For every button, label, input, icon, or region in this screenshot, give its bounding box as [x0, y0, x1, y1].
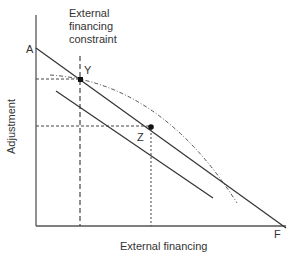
point-f-label: F — [274, 228, 281, 241]
point-z — [148, 124, 154, 130]
point-z-label: Z — [137, 131, 144, 144]
x-axis-label: External financing — [120, 240, 207, 253]
constraint-label-line1: External — [69, 7, 109, 20]
line-af — [36, 48, 286, 228]
diagram-canvas — [0, 0, 300, 260]
y-axis-label: Adjustment — [5, 99, 18, 154]
constraint-label-line2: financing — [69, 20, 113, 33]
point-y-label: Y — [84, 64, 91, 77]
constraint-label-line3: constraint — [69, 33, 117, 46]
point-a-label: A — [26, 43, 33, 56]
point-y — [78, 77, 83, 82]
